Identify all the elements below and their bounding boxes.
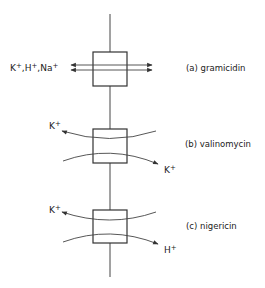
- ions-label-a: K+,H+,Na+: [10, 63, 58, 73]
- charge: +: [55, 204, 61, 212]
- panel-c-nigericin: [62, 210, 158, 244]
- panel-label-a: (a) gramicidin: [186, 64, 245, 73]
- ion-label-c-upper: K+: [49, 205, 61, 215]
- ionophore-box-b: [93, 129, 127, 163]
- ion-label-c-lower: H+: [164, 245, 177, 255]
- ion-label-b-lower: K+: [164, 165, 176, 175]
- charge: +: [31, 62, 37, 70]
- charge: +: [171, 244, 177, 252]
- ionophore-box-c: [93, 210, 127, 243]
- charge: +: [52, 62, 58, 70]
- ionophore-box-a: [93, 52, 127, 86]
- panel-a-gramicidin: [71, 52, 152, 86]
- panel-label-c: (c) nigericin: [186, 222, 237, 231]
- panel-b-valinomycin: [62, 129, 158, 164]
- charge: +: [16, 62, 22, 70]
- charge: +: [170, 164, 176, 172]
- panel-label-b: (b) valinomycin: [185, 140, 251, 149]
- charge: +: [55, 120, 61, 128]
- ion-na: Na: [40, 63, 52, 73]
- ion-h: H: [164, 245, 171, 255]
- ion-label-b-upper: K+: [49, 121, 61, 131]
